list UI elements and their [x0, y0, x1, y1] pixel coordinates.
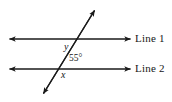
geometry-figure: Line 1 Line 2 y 55° x — [0, 0, 172, 102]
angle-label-x: x — [61, 70, 65, 80]
line1-label: Line 1 — [135, 33, 165, 44]
geometry-canvas — [0, 0, 172, 102]
line2-label: Line 2 — [135, 63, 165, 74]
transversal-stroke-down — [44, 11, 95, 94]
transversal-group — [44, 11, 95, 94]
angle-label-55-degrees: 55° — [69, 54, 82, 64]
angle-label-y: y — [64, 42, 68, 52]
